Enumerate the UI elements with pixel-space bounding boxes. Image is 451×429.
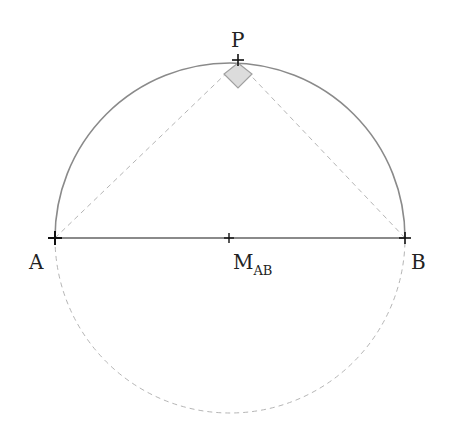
label-p: P [231, 30, 244, 50]
thales-diagram [0, 0, 451, 429]
label-m-text: M [233, 250, 253, 274]
point-marker-b [399, 232, 411, 244]
right-angle-marker [224, 63, 252, 88]
label-m-subscript: AB [253, 263, 272, 278]
label-m-ab: MAB [233, 252, 272, 272]
point-marker-a [48, 231, 62, 245]
lower-dashed-semicircle [55, 238, 405, 413]
label-b-text: B [411, 250, 426, 274]
point-marker-m [224, 233, 234, 243]
label-a: A [29, 252, 43, 272]
label-p-text: P [231, 28, 244, 52]
label-a-text: A [29, 250, 43, 274]
upper-solid-semicircle [55, 63, 405, 238]
chord-ap [55, 62, 238, 238]
label-b: B [411, 252, 426, 272]
